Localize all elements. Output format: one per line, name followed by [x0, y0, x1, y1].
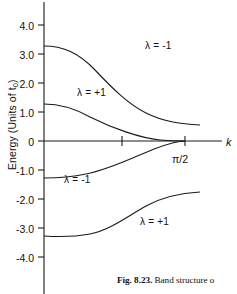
band-structure-plot: [0, 0, 237, 294]
figure-container: Energy (Units of t0) 4.0 3.0 2.0 1.0 0 -…: [0, 0, 237, 294]
curve-band-4: [44, 192, 200, 237]
figure-caption-number: Fig. 8.23.: [117, 275, 152, 285]
curve-band-3: [44, 141, 185, 178]
figure-caption-text: Band structure o: [152, 275, 214, 285]
figure-caption: Fig. 8.23. Band structure o: [117, 275, 214, 285]
curve-band-2: [44, 104, 185, 141]
curve-band-1: [44, 46, 200, 125]
